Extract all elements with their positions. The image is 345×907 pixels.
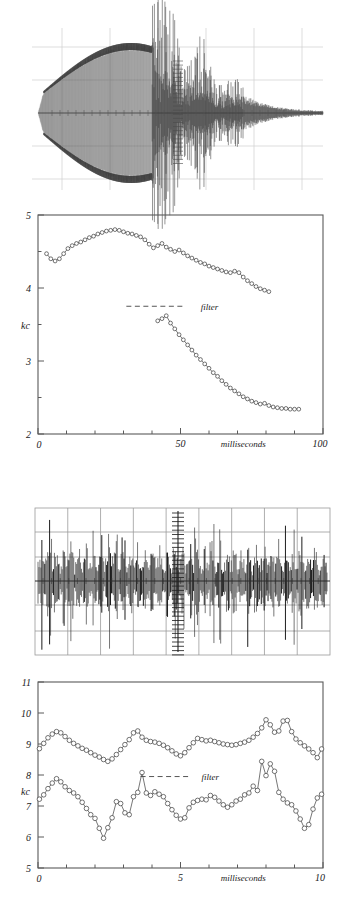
data-point	[165, 801, 170, 806]
data-point	[109, 228, 113, 232]
data-point	[203, 362, 207, 366]
data-point	[53, 259, 57, 263]
data-point	[237, 392, 241, 396]
data-point	[118, 801, 123, 806]
data-point	[191, 800, 196, 805]
filter-label: filter	[202, 772, 220, 782]
data-point	[123, 811, 128, 816]
data-point	[241, 275, 245, 279]
data-point	[246, 397, 250, 401]
data-point	[190, 348, 194, 352]
data-point	[177, 333, 181, 337]
data-point	[186, 343, 190, 347]
data-point	[170, 749, 175, 754]
data-point	[182, 750, 187, 755]
data-point	[80, 800, 85, 805]
data-point	[161, 743, 166, 748]
x-axis-label: milliseconds	[221, 873, 266, 883]
data-point	[46, 786, 51, 791]
data-point	[122, 230, 126, 234]
upper-oscillogram	[0, 0, 345, 200]
data-point	[105, 229, 109, 233]
data-point	[139, 235, 143, 239]
data-point	[173, 250, 177, 254]
data-point	[63, 734, 68, 739]
data-point	[67, 788, 72, 793]
data-point	[63, 784, 68, 789]
data-point	[224, 382, 228, 386]
filter-annotation: filter	[141, 772, 220, 782]
data-point	[294, 809, 299, 814]
data-point	[199, 261, 203, 265]
data-point	[148, 793, 153, 798]
data-point	[50, 781, 55, 786]
data-point	[302, 744, 307, 749]
data-point	[123, 742, 128, 747]
upper-frequency-panel: 2345kc050100millisecondsfilter	[0, 200, 345, 460]
data-point	[140, 735, 145, 740]
data-point	[277, 729, 282, 734]
data-point	[134, 234, 138, 238]
axis-ticks	[38, 215, 323, 434]
data-point	[92, 234, 96, 238]
data-point	[59, 780, 64, 785]
data-point	[200, 797, 205, 802]
data-series-upper-harmonic	[45, 228, 271, 294]
data-point	[259, 726, 264, 731]
data-point	[194, 258, 198, 262]
lower-oscillogram-panel	[0, 495, 345, 665]
data-point	[87, 236, 91, 240]
data-point	[186, 254, 190, 258]
data-point	[66, 247, 70, 251]
axis-tick-label: 4	[26, 283, 31, 294]
data-point	[93, 753, 98, 758]
data-point	[147, 242, 151, 246]
data-point	[221, 742, 226, 747]
data-point	[143, 238, 147, 242]
data-point	[241, 395, 245, 399]
data-point	[101, 836, 106, 841]
data-point	[281, 797, 286, 802]
data-point	[315, 755, 320, 760]
data-point	[187, 806, 192, 811]
data-point	[194, 353, 198, 357]
data-point	[251, 735, 256, 740]
data-point	[97, 755, 102, 760]
data-point	[263, 401, 267, 405]
data-point	[267, 290, 271, 294]
data-point	[228, 271, 232, 275]
data-point	[144, 738, 149, 743]
axis-tick-label: 2	[26, 429, 31, 440]
data-point	[49, 257, 53, 261]
data-point	[57, 257, 61, 261]
data-point	[268, 722, 273, 727]
data-point	[164, 245, 168, 249]
filter-label: filter	[201, 302, 219, 312]
data-point	[220, 379, 224, 383]
data-point	[79, 240, 83, 244]
data-point	[156, 319, 160, 323]
data-point	[161, 794, 166, 799]
data-point	[247, 791, 252, 796]
data-point	[174, 813, 179, 818]
data-point	[37, 797, 42, 802]
data-point	[173, 327, 177, 331]
data-point	[76, 744, 81, 749]
data-point	[84, 748, 89, 753]
data-point	[280, 407, 284, 411]
data-point	[263, 288, 267, 292]
y-axis-label: kc	[21, 786, 30, 797]
data-point	[178, 817, 183, 822]
x-axis-tick-0: 0	[37, 439, 42, 450]
data-point	[80, 746, 85, 751]
data-point	[233, 389, 237, 393]
data-point	[255, 788, 260, 793]
data-point	[114, 799, 119, 804]
axis-tick-label: 9	[26, 739, 31, 750]
data-point	[164, 314, 168, 318]
data-point	[216, 374, 220, 378]
data-point	[217, 740, 222, 745]
data-point	[126, 231, 130, 235]
data-point	[97, 826, 102, 831]
data-series-lower-harmonic	[156, 314, 301, 411]
